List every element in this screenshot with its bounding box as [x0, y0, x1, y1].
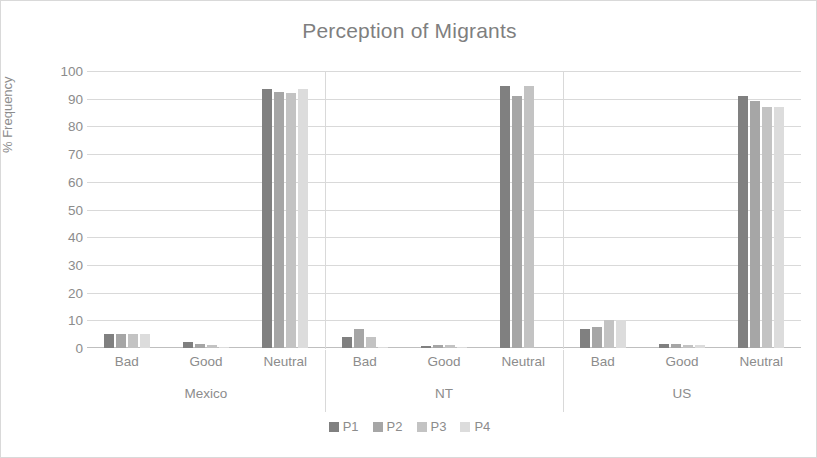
category-label: Neutral [484, 354, 563, 369]
bar [524, 86, 534, 348]
y-axis-tick-label: 40 [37, 230, 83, 245]
legend-label: P4 [474, 419, 490, 434]
legend-swatch-icon [329, 422, 339, 432]
category-label: Neutral [246, 354, 325, 369]
bar [762, 107, 772, 348]
group-separator [325, 71, 326, 349]
y-axis-tick-label: 0 [37, 341, 83, 356]
legend-swatch-icon [460, 422, 470, 432]
bar [750, 101, 760, 348]
bar [262, 89, 272, 348]
legend-item[interactable]: P4 [460, 419, 490, 434]
bar [378, 347, 388, 348]
bar [500, 86, 510, 348]
category-label: Bad [325, 354, 404, 369]
group-separator [325, 350, 326, 412]
y-axis-ticks: 1009080706050403020100 [31, 71, 83, 348]
bar [457, 347, 467, 348]
y-axis-label: % Frequency [0, 76, 15, 153]
legend-swatch-icon [373, 422, 383, 432]
bar [128, 334, 138, 348]
bar [286, 93, 296, 348]
legend-label: P3 [431, 419, 447, 434]
y-axis-tick-label: 60 [37, 174, 83, 189]
group-axis-labels: MexicoNTUS [87, 380, 801, 412]
bar [512, 96, 522, 348]
legend-swatch-icon [417, 422, 427, 432]
category-label: Good [404, 354, 483, 369]
bar [580, 329, 590, 348]
chart-title: Perception of Migrants [1, 19, 817, 43]
bar [738, 96, 748, 348]
group-label: NT [325, 386, 563, 401]
bar [219, 347, 229, 348]
bar [445, 345, 455, 348]
bar [140, 334, 150, 348]
bar [354, 329, 364, 348]
legend-label: P2 [387, 419, 403, 434]
y-axis-tick-label: 80 [37, 119, 83, 134]
bar [183, 342, 193, 348]
bar [116, 334, 126, 348]
legend-item[interactable]: P3 [417, 419, 447, 434]
y-axis-tick-label: 90 [37, 91, 83, 106]
category-label: Good [166, 354, 245, 369]
bar [604, 320, 614, 348]
group-separator [563, 350, 564, 412]
group-label: Mexico [87, 386, 325, 401]
y-axis-tick-label: 20 [37, 285, 83, 300]
category-label: Bad [563, 354, 642, 369]
y-axis-tick-label: 100 [37, 64, 83, 79]
y-axis-tick-label: 10 [37, 313, 83, 328]
bars-layer [87, 71, 801, 348]
bar [195, 344, 205, 348]
bar [433, 345, 443, 348]
legend-item[interactable]: P1 [329, 419, 359, 434]
bar [342, 337, 352, 348]
legend-item[interactable]: P2 [373, 419, 403, 434]
y-axis-tick-label: 70 [37, 147, 83, 162]
bar [616, 320, 626, 348]
plot-area [87, 71, 801, 348]
bar [104, 334, 114, 348]
bar [774, 107, 784, 348]
legend-label: P1 [343, 419, 359, 434]
bar [421, 346, 431, 348]
bar [695, 345, 705, 348]
bar [207, 345, 217, 348]
bar [683, 345, 693, 348]
y-axis-tick-label: 50 [37, 202, 83, 217]
category-label: Bad [87, 354, 166, 369]
bar [659, 344, 669, 348]
chart-container: Perception of Migrants % Frequency 10090… [0, 0, 817, 458]
bar [274, 92, 284, 348]
bar [671, 344, 681, 348]
group-separator [563, 71, 564, 349]
category-axis-labels: BadGoodNeutralBadGoodNeutralBadGoodNeutr… [87, 350, 801, 380]
y-axis-tick-label: 30 [37, 257, 83, 272]
bar [366, 337, 376, 348]
category-label: Good [642, 354, 721, 369]
bar [298, 89, 308, 348]
category-label: Neutral [722, 354, 801, 369]
group-label: US [563, 386, 801, 401]
chart-legend: P1P2P3P4 [1, 419, 817, 434]
bar [592, 327, 602, 348]
